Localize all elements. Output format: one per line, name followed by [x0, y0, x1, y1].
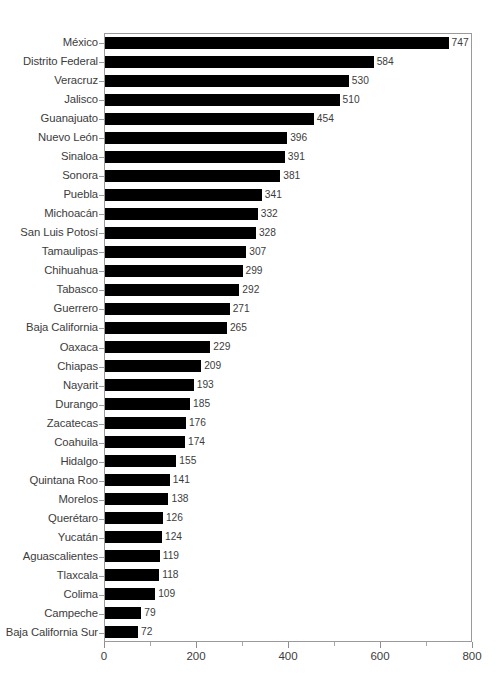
- y-axis-tick: [99, 500, 104, 501]
- x-axis-minor-tick: [426, 642, 427, 646]
- bar-row: Zacatecas176: [0, 414, 499, 434]
- category-label: Puebla: [2, 185, 98, 205]
- y-axis-tick: [99, 538, 104, 539]
- bar-row: Distrito Federal584: [0, 52, 499, 72]
- y-axis-tick: [99, 614, 104, 615]
- bar-row: San Luis Potosí328: [0, 223, 499, 243]
- category-label: Durango: [2, 395, 98, 415]
- bar: [105, 113, 314, 125]
- bar-value-label: 381: [283, 168, 300, 184]
- bar-value-label: 307: [249, 244, 266, 260]
- y-axis-tick: [99, 119, 104, 120]
- bar: [105, 208, 258, 220]
- bar-row: Morelos138: [0, 490, 499, 510]
- bar-value-label: 209: [204, 358, 221, 374]
- x-axis-minor-tick: [242, 642, 243, 646]
- category-label: Veracruz: [2, 71, 98, 91]
- bar-value-label: 299: [246, 263, 263, 279]
- bar-value-label: 118: [162, 567, 178, 583]
- bar-value-label: 265: [230, 320, 247, 336]
- bar-row: Tabasco292: [0, 280, 499, 300]
- bar-row: Sonora381: [0, 166, 499, 186]
- bar-row: Campeche79: [0, 604, 499, 624]
- x-axis-minor-tick: [334, 642, 335, 646]
- bar-row: Baja California Sur72: [0, 623, 499, 643]
- bar: [105, 132, 287, 144]
- category-label: Yucatán: [2, 528, 98, 548]
- bar: [105, 607, 141, 619]
- bar-value-label: 341: [265, 187, 282, 203]
- bar-row: Nayarit193: [0, 376, 499, 396]
- category-label: Quintana Roo: [2, 471, 98, 491]
- bar: [105, 474, 170, 486]
- category-label: Campeche: [2, 604, 98, 624]
- bar-value-label: 510: [343, 92, 360, 108]
- category-label: Aguascalientes: [2, 547, 98, 567]
- y-axis-tick: [99, 138, 104, 139]
- y-axis-tick: [99, 576, 104, 577]
- bar-row: Sinaloa391: [0, 147, 499, 167]
- bar-row: Chiapas209: [0, 357, 499, 377]
- y-axis-tick: [99, 481, 104, 482]
- category-label: Sinaloa: [2, 147, 98, 167]
- bar-row: Aguascalientes119: [0, 547, 499, 567]
- bar-value-label: 391: [288, 149, 305, 165]
- bar: [105, 265, 243, 277]
- x-axis-tick-label: 400: [268, 650, 308, 662]
- bar: [105, 284, 239, 296]
- y-axis-tick: [99, 462, 104, 463]
- bar: [105, 170, 280, 182]
- bar: [105, 75, 349, 87]
- category-label: Sonora: [2, 166, 98, 186]
- y-axis-tick: [99, 100, 104, 101]
- y-axis-tick: [99, 367, 104, 368]
- bar-value-label: 79: [144, 605, 155, 621]
- bar: [105, 246, 246, 258]
- y-axis-tick: [99, 328, 104, 329]
- category-label: Nuevo León: [2, 128, 98, 148]
- bar: [105, 360, 201, 372]
- bar-row: Jalisco510: [0, 90, 499, 110]
- bar-row: México747: [0, 33, 499, 53]
- bar: [105, 189, 262, 201]
- bar-row: Tlaxcala118: [0, 566, 499, 586]
- bar-value-label: 584: [377, 54, 394, 70]
- y-axis-tick: [99, 195, 104, 196]
- bar: [105, 569, 159, 581]
- bar-row: Querétaro126: [0, 509, 499, 529]
- y-axis-tick: [99, 386, 104, 387]
- category-label: Distrito Federal: [2, 52, 98, 72]
- bar-row: Hidalgo155: [0, 452, 499, 472]
- x-axis-major-tick: [380, 642, 381, 648]
- bar-value-label: 454: [317, 111, 334, 127]
- category-label: San Luis Potosí: [2, 223, 98, 243]
- bar: [105, 37, 449, 49]
- bar: [105, 626, 138, 638]
- y-axis-tick: [99, 309, 104, 310]
- bar-row: Colima109: [0, 585, 499, 605]
- category-label: Baja California: [2, 318, 98, 338]
- y-axis-tick: [99, 519, 104, 520]
- bar: [105, 303, 230, 315]
- bar: [105, 588, 155, 600]
- bar-value-label: 141: [173, 472, 190, 488]
- x-axis-major-tick: [196, 642, 197, 648]
- category-label: Michoacán: [2, 204, 98, 224]
- bar-row: Tamaulipas307: [0, 242, 499, 262]
- bar-row: Baja California265: [0, 318, 499, 338]
- bar: [105, 550, 160, 562]
- bar: [105, 398, 190, 410]
- y-axis-tick: [99, 595, 104, 596]
- bar-row: Puebla341: [0, 185, 499, 205]
- x-axis-tick-label: 200: [176, 650, 216, 662]
- bar-value-label: 138: [171, 491, 188, 507]
- y-axis-tick: [99, 443, 104, 444]
- x-axis-major-tick: [104, 642, 105, 648]
- y-axis-tick: [99, 81, 104, 82]
- bar: [105, 436, 185, 448]
- bar-value-label: 72: [141, 624, 152, 640]
- bar-row: Guanajuato454: [0, 109, 499, 129]
- bar: [105, 341, 210, 353]
- category-label: Hidalgo: [2, 452, 98, 472]
- bar-chart: México747Distrito Federal584Veracruz530J…: [0, 0, 499, 694]
